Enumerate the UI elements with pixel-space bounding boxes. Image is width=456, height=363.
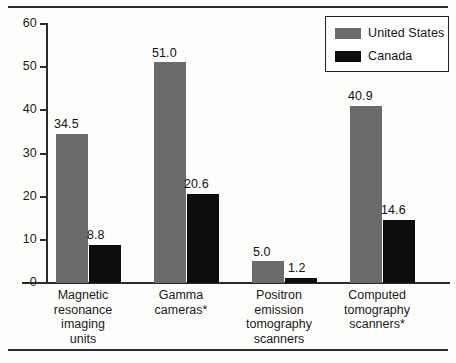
bar-canada-2[interactable]	[285, 278, 317, 283]
legend-label-united-states: United States	[368, 26, 444, 40]
category-line: Gamma	[132, 288, 230, 303]
bar-united-states-2[interactable]	[252, 261, 284, 283]
bar-value-label-us-3: 40.9	[348, 89, 373, 103]
bar-united-states-0[interactable]	[56, 134, 88, 284]
bar-value-label-ca-0: 8.8	[87, 228, 105, 242]
legend-swatch-icon-united-states	[335, 28, 361, 39]
y-tick-label-50: 50	[1, 59, 37, 73]
category-line: Computed	[328, 288, 426, 303]
category-line: tomography	[328, 303, 426, 318]
bar-value-label-ca-1: 20.6	[184, 177, 209, 191]
bar-canada-3[interactable]	[383, 220, 415, 283]
y-tick-label-40: 40	[1, 102, 37, 116]
category-line: scanners*	[328, 317, 426, 332]
y-tick-label-20: 20	[1, 189, 37, 203]
category-line: tomography	[230, 317, 328, 332]
category-line: emission	[230, 303, 328, 318]
bar-group-positron-emission-tomography-scanners: 5.0 1.2	[252, 23, 320, 283]
bottom-divider-rule	[8, 349, 448, 351]
legend-swatch-icon-canada	[335, 51, 361, 62]
chart-legend: United States Canada	[325, 16, 449, 72]
category-line: Positron	[230, 288, 328, 303]
bar-value-label-us-2: 5.0	[253, 245, 271, 259]
category-label-magnetic-resonance-imaging-units: Magnetic resonance imaging units	[34, 288, 132, 346]
category-line: scanners	[230, 332, 328, 347]
y-tick-label-60: 60	[1, 16, 37, 30]
bar-united-states-3[interactable]	[350, 106, 382, 283]
category-line: units	[34, 332, 132, 347]
bar-group-gamma-cameras: 51.0 20.6	[154, 23, 222, 283]
category-line: cameras*	[132, 303, 230, 318]
legend-item-united-states[interactable]: United States	[335, 25, 444, 41]
top-divider-rule	[8, 6, 448, 8]
bar-value-label-ca-3: 14.6	[381, 203, 406, 217]
category-label-positron-emission-tomography-scanners: Positron emission tomography scanners	[230, 288, 328, 346]
category-label-computed-tomography-scanners: Computed tomography scanners*	[328, 288, 426, 332]
chart-figure: 60 50 40 30 20 10 0 34.5	[0, 0, 456, 363]
y-tick-label-10: 10	[1, 232, 37, 246]
category-line: resonance	[34, 303, 132, 318]
legend-item-canada[interactable]: Canada	[335, 48, 412, 64]
category-label-gamma-cameras: Gamma cameras*	[132, 288, 230, 317]
bar-group-magnetic-resonance-imaging-units: 34.5 8.8	[56, 23, 124, 283]
y-tick-label-30: 30	[1, 146, 37, 160]
bar-value-label-us-1: 51.0	[152, 46, 177, 60]
bar-value-label-us-0: 34.5	[54, 117, 79, 131]
legend-label-canada: Canada	[368, 49, 412, 63]
bar-canada-1[interactable]	[187, 194, 219, 283]
bar-canada-0[interactable]	[89, 245, 121, 283]
bar-value-label-ca-2: 1.2	[288, 261, 306, 275]
category-line: Magnetic	[34, 288, 132, 303]
bar-united-states-1[interactable]	[154, 62, 186, 283]
category-line: imaging	[34, 317, 132, 332]
